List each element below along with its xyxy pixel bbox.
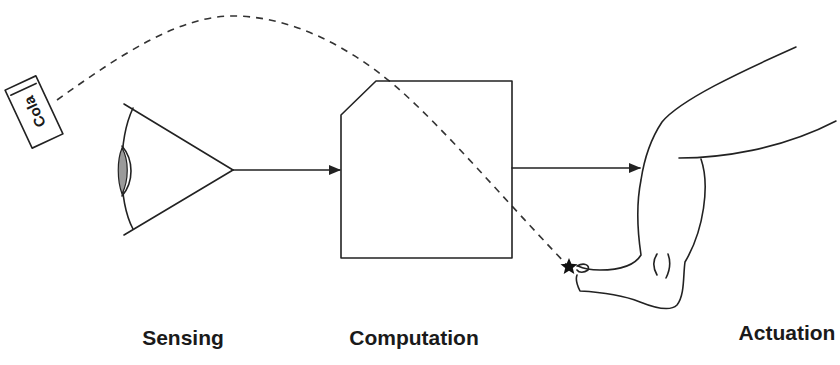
leg-foot-icon xyxy=(576,47,836,309)
cola-can-icon: Cola xyxy=(5,76,63,148)
eye-lens xyxy=(118,148,127,194)
eye-icon xyxy=(118,104,233,235)
actuation-label: Actuation xyxy=(739,321,836,344)
computation-box-icon xyxy=(341,81,512,258)
sensing-computation-actuation-diagram: Cola Sensing Computation Actuation xyxy=(0,0,840,365)
computation-label: Computation xyxy=(349,326,478,349)
sensing-label: Sensing xyxy=(142,326,224,349)
star-icon xyxy=(561,258,578,274)
